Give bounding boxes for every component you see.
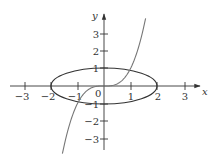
x-tick-label: 2 (155, 91, 161, 102)
x-tick-label: 1 (128, 91, 134, 102)
x-tick-labels: −3 −2 −1 1 2 3 (15, 91, 189, 102)
y-tick-label: −2 (84, 116, 99, 127)
y-tick-label: 2 (93, 46, 99, 57)
x-tick-label: −2 (41, 91, 56, 102)
y-tick-label: −3 (84, 134, 99, 145)
x-axis-label: x (202, 86, 208, 97)
y-tick-labels: 3 2 1 −1 −2 −3 (84, 29, 99, 145)
y-tick-label: −1 (84, 99, 99, 110)
origin-label: 0 (95, 88, 101, 99)
graph-figure: x y 0 −3 −2 −1 1 2 3 3 2 1 −1 −2 −3 (0, 0, 212, 158)
x-tick-label: 3 (182, 91, 188, 102)
y-tick-label: 3 (93, 29, 99, 40)
x-tick-label: −3 (15, 91, 30, 102)
y-axis-label: y (91, 10, 98, 21)
